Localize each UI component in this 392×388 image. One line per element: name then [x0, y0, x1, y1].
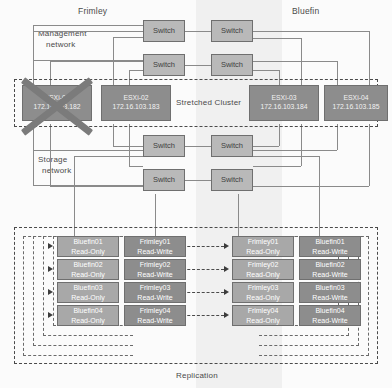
replication-arrow-4 [48, 312, 53, 318]
cable-stor-13 [337, 124, 338, 150]
datastore-name: Bluefin04 [315, 306, 344, 315]
datastore-mode: Read-Only [71, 293, 104, 302]
switch-storage-4[interactable]: Switch [211, 169, 253, 191]
datastore-mode: Read-Only [246, 270, 279, 279]
cable-stor-10 [253, 146, 279, 147]
cable-stor-7 [50, 124, 51, 186]
host-name: ESXi-04 [344, 94, 369, 103]
switch-storage-2[interactable]: Switch [211, 135, 253, 157]
datastore-col1-3[interactable]: Bluefin03 Read-Only [57, 282, 119, 303]
datastore-col2-2[interactable]: Frimley02 Read-Write [124, 259, 186, 280]
datastore-col3-1[interactable]: Frimley01 Read-Only [232, 236, 294, 257]
cable-sw3-sw4 [185, 65, 211, 66]
datastore-col1-1[interactable]: Bluefin01 Read-Only [57, 236, 119, 257]
datastore-col3-3[interactable]: Frimley03 Read-Only [232, 282, 294, 303]
datastore-name: Bluefin02 [315, 260, 344, 269]
host-ip: 172.16.103.185 [332, 103, 379, 112]
switch-label: Switch [221, 60, 243, 70]
cable-stor-14 [253, 150, 337, 151]
network-diagram: Frimley Bluefin Management network Stora… [0, 0, 392, 388]
datastore-mode: Read-Write [137, 293, 172, 302]
cable-stor-2 [113, 146, 143, 147]
replication-arrow-2 [48, 266, 53, 272]
switch-label: Switch [221, 175, 243, 185]
datastore-name: Frimley01 [248, 237, 279, 246]
switch-mgmt-2[interactable]: Switch [211, 20, 253, 42]
switch-mgmt-4[interactable]: Switch [211, 54, 253, 76]
switch-mgmt-3[interactable]: Switch [143, 54, 185, 76]
datastore-name: Bluefin01 [73, 237, 102, 246]
storage-network-label-line1: Storage [38, 155, 67, 164]
datastore-col1-2[interactable]: Bluefin02 Read-Only [57, 259, 119, 280]
datastore-name: Bluefin01 [315, 237, 344, 246]
datastore-name: Frimley02 [248, 260, 279, 269]
datastore-mode: Read-Only [246, 316, 279, 325]
cable-sw5-sw6 [185, 146, 211, 147]
cable-mgmt-15 [253, 70, 279, 71]
datastore-mode: Read-Write [137, 316, 172, 325]
switch-label: Switch [153, 60, 175, 70]
datastore-mode: Read-Only [71, 270, 104, 279]
switch-storage-1[interactable]: Switch [143, 135, 185, 157]
cable-stor-9 [279, 124, 280, 146]
cable-down-col1 [74, 156, 75, 238]
switch-storage-3[interactable]: Switch [143, 169, 185, 191]
cable-stor-4 [129, 166, 143, 167]
host-esxi-01[interactable]: ESXi-01 172.16.103.182 [22, 85, 92, 121]
replication-label: Replication [176, 371, 218, 380]
datastore-col1-4[interactable]: Bluefin04 Read-Only [57, 305, 119, 326]
datastore-col2-4[interactable]: Frimley04 Read-Write [124, 305, 186, 326]
datastore-mode: Read-Write [312, 270, 347, 279]
switch-label: Switch [153, 26, 175, 36]
management-network-label-line2: network [46, 40, 75, 49]
datastore-col4-1[interactable]: Bluefin01 Read-Write [299, 236, 361, 257]
datastore-col4-3[interactable]: Bluefin03 Read-Write [299, 282, 361, 303]
datastore-col2-1[interactable]: Frimley01 Read-Write [124, 236, 186, 257]
switch-mgmt-1[interactable]: Switch [143, 20, 185, 42]
host-esxi-03[interactable]: ESXi-03 172.16.103.184 [249, 85, 319, 121]
datastore-name: Frimley04 [140, 306, 171, 315]
cable-stor-5 [33, 124, 34, 150]
stretched-cluster-label: Stretched Cluster [176, 98, 241, 107]
host-esxi-02[interactable]: ESXi-02 172.16.103.183 [101, 85, 171, 121]
storage-network-label-line2: network [42, 166, 71, 175]
cable-stor-12 [253, 166, 301, 167]
replication-arrow-3 [48, 289, 53, 295]
cable-mgmt-11 [253, 38, 301, 39]
switch-label: Switch [153, 141, 175, 151]
datastore-name: Bluefin04 [73, 306, 102, 315]
cable-down-col4-h [253, 156, 319, 157]
cable-stor-11 [301, 124, 302, 166]
replication-mid-arrow-1 [224, 243, 229, 249]
cable-stor-3 [129, 124, 130, 166]
cable-stor-1 [113, 124, 114, 146]
cable-mgmt-5 [50, 61, 143, 62]
cable-mgmt-9 [253, 31, 369, 32]
datastore-name: Frimley03 [140, 283, 171, 292]
datastore-name: Frimley02 [140, 260, 171, 269]
site-label-bluefin: Bluefin [292, 6, 319, 16]
datastore-col4-4[interactable]: Bluefin04 Read-Write [299, 305, 361, 326]
host-name: ESXi-03 [272, 94, 297, 103]
datastore-mode: Read-Only [71, 247, 104, 256]
datastore-col3-4[interactable]: Frimley04 Read-Only [232, 305, 294, 326]
cable-mgmt-1 [33, 31, 143, 32]
switch-label: Switch [221, 141, 243, 151]
datastore-name: Frimley03 [248, 283, 279, 292]
datastore-mode: Read-Write [312, 316, 347, 325]
cable-sw7-sw8 [185, 180, 211, 181]
cable-sw1-sw2 [185, 31, 211, 32]
cable-down-col4 [319, 156, 320, 238]
datastore-col2-3[interactable]: Frimley03 Read-Write [124, 282, 186, 303]
host-ip: 172.16.103.182 [33, 103, 80, 112]
datastore-name: Bluefin03 [73, 283, 102, 292]
host-esxi-04[interactable]: ESXi-04 172.16.103.185 [324, 85, 388, 121]
cable-down-col1-h [74, 156, 143, 157]
datastore-name: Frimley04 [248, 306, 279, 315]
replication-mid-arrow-3 [224, 289, 229, 295]
cable-mgmt-13 [253, 61, 337, 62]
datastore-col4-2[interactable]: Bluefin02 Read-Write [299, 259, 361, 280]
datastore-col3-2[interactable]: Frimley02 Read-Only [232, 259, 294, 280]
datastore-name: Bluefin02 [73, 260, 102, 269]
replication-mid-arrow-4 [224, 312, 229, 318]
